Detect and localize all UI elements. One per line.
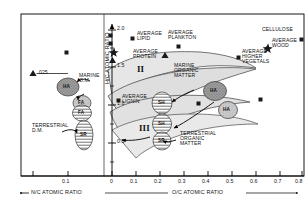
- label-average-lignin: AVERAGE LIGNIN: [122, 94, 147, 104]
- x-tick-0-7: 0.7: [274, 179, 282, 184]
- ellipse-label-ha-right: HA: [210, 89, 217, 94]
- label-average-lipid: AVERAGE LIPID: [137, 31, 162, 41]
- y-tick-0-5: 0.5: [117, 139, 125, 144]
- x-tick-0-4: 0.4: [202, 179, 210, 184]
- label-terrestrial-organic-matter: TERRESTRIAL ORGANIC MATTER: [180, 131, 216, 147]
- x-tick-0-3: 0.3: [178, 179, 186, 184]
- left-panel-value: 025: [39, 70, 48, 75]
- y-tick-2-0: 2.0: [117, 26, 125, 31]
- label-marine-om: MARINE O.M.: [79, 73, 99, 83]
- ellipse-label-ha-marine: HA: [63, 85, 70, 90]
- label-marine-organic-matter: MARINE ORGANIC MATTER: [174, 63, 198, 79]
- ellipse-label-sh-upper: SH: [158, 101, 165, 106]
- label-average-protein: AVERAGE PROTEIN: [133, 49, 158, 59]
- label-cellulose: CELLULOSE: [262, 27, 293, 32]
- ellipse-label-sh-mid: SH: [158, 122, 165, 127]
- label-average-plankton: AVERAGE PLANKTON: [168, 30, 196, 40]
- x-tick-0-2: 0.2: [154, 179, 162, 184]
- x-left-tick-0-1: 0.1: [62, 179, 70, 184]
- ellipse-label-sr-terrestrial: SR: [80, 133, 87, 138]
- label-average-wood: AVERAGE WOOD: [272, 38, 297, 48]
- x-tick-0-6: 0.6: [250, 179, 258, 184]
- x-tick-0-5: 0.5: [226, 179, 234, 184]
- x-axis: [21, 171, 304, 176]
- x-axis-left-label: N/C ATOMIC RATIO: [31, 190, 82, 196]
- ellipse-label-fa-marine-2: FA: [78, 111, 84, 116]
- x-tick-0-8: 0.8: [295, 179, 303, 184]
- x-axis-right-label: O/C ATOMIC RATIO: [172, 190, 223, 196]
- region-label-iii: III: [139, 124, 150, 133]
- region-label-ii: II: [137, 65, 144, 74]
- x-tick-0: 0: [110, 179, 113, 184]
- y-axis-label: H/C ATOMIC RATIO: [104, 32, 110, 84]
- x-tick-0-1: 0.1: [130, 179, 138, 184]
- label-terrestrial-dm: TERRESTRIAL D.M.: [32, 123, 68, 133]
- ellipse-label-fa-marine: FA: [78, 101, 84, 106]
- ellipse-label-sr-lower: SR: [158, 139, 165, 144]
- y-tick-1-5: 1.5: [117, 63, 125, 68]
- left-panel-markers: [29, 51, 68, 77]
- van-krevelen-figure: 2.0 1.5 1.0 0.5 H/C ATOMIC RATIO 0.1 0 0…: [0, 0, 308, 205]
- label-average-higher-vegetals: AVERAGE HIGHER VEGETALS: [242, 49, 269, 65]
- ellipse-label-ha-right-2: HA: [223, 108, 230, 113]
